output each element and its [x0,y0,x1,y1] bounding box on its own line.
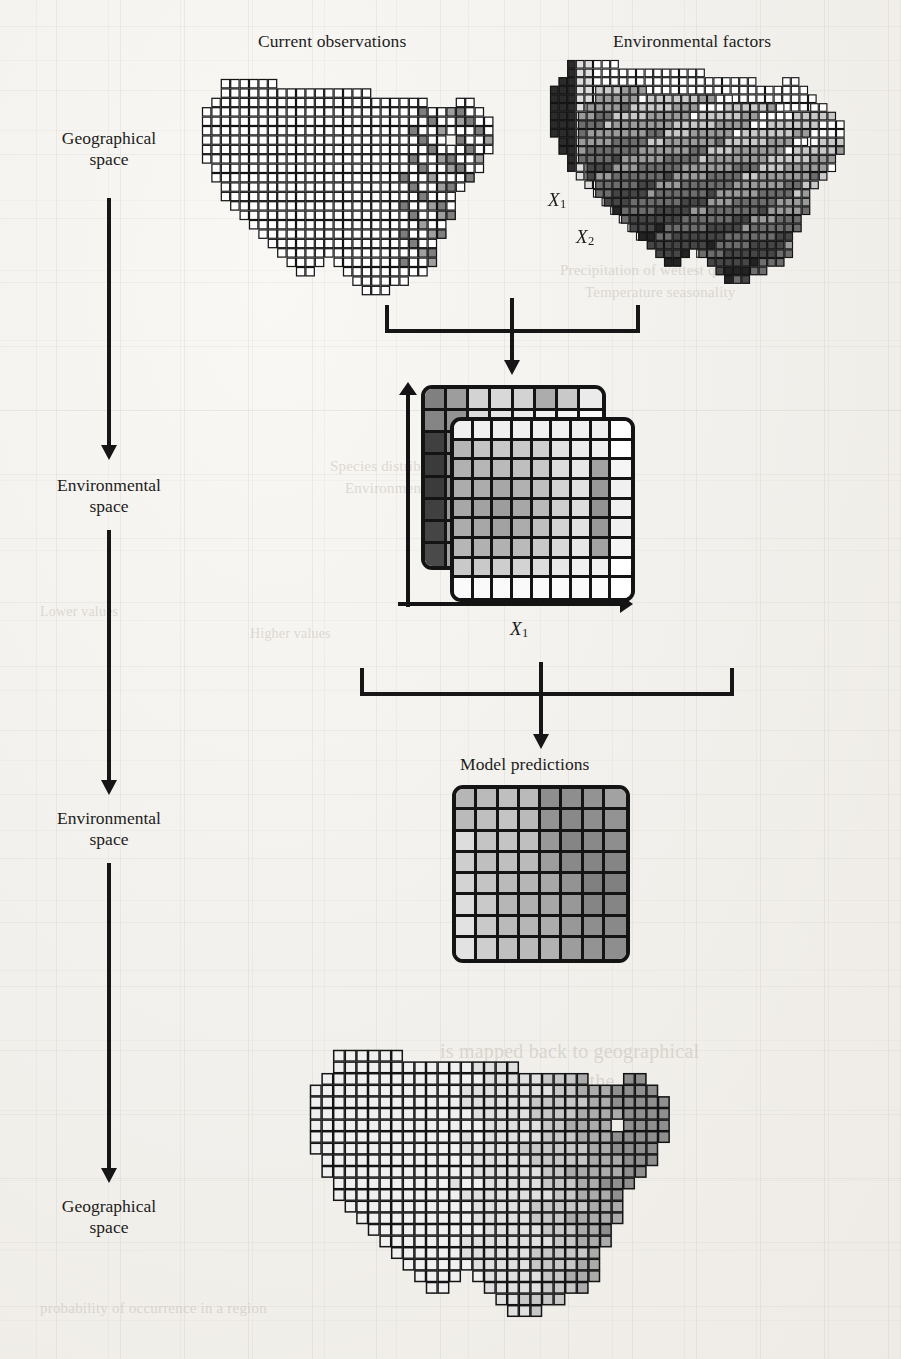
grid-cell [533,500,553,520]
grid-cell [477,895,498,916]
x1-subscript: 1 [522,626,529,640]
grid-cell [611,519,631,539]
grid-cell [562,789,583,810]
grid-cell [592,421,612,441]
grid-cell [425,389,447,411]
stage-label-line2: space [90,829,129,849]
grid-cell [605,874,626,895]
grid-cell [493,578,513,598]
grid-cell [493,421,513,441]
grid-cell [552,578,572,598]
grid-cell [611,460,631,480]
grid-cell [520,832,541,853]
grid-cell [499,853,520,874]
map-current-observations [198,75,518,305]
grid-cell [562,810,583,831]
title-environmental-factors: Environmental factors [613,31,771,52]
grid-cell [605,853,626,874]
label-x1-map: X1 [548,189,566,212]
grid-cell [454,559,474,579]
grid-cell [499,917,520,938]
grid-cell [477,832,498,853]
grid-cell [491,389,513,411]
grid-cell [552,441,572,461]
grid-cell [541,810,562,831]
x1-symbol: X [548,189,560,210]
grid-cell [558,389,580,411]
grid-cell [474,421,494,441]
grid-cell [572,421,592,441]
grid-cell [456,789,477,810]
title-model-predictions: Model predictions [460,754,590,775]
grid-cell [456,938,477,959]
grid-cell [562,938,583,959]
map-model-predictions-geographic [305,1045,693,1341]
grid-cell [469,389,491,411]
grid-cell [456,810,477,831]
grid-cell [541,853,562,874]
grid-cell [592,519,612,539]
grid-cell [513,441,533,461]
stage-label-geographical-space-2: Geographical space [14,1196,204,1238]
grid-cell [584,789,605,810]
env-space-y-axis [398,382,418,607]
grid-cell [572,519,592,539]
grid-cell [572,441,592,461]
grid-cell [584,874,605,895]
grid-cell [562,917,583,938]
grid-cell [520,853,541,874]
env-space-plate-front [450,417,635,602]
grid-cell [474,578,494,598]
grid-cell [572,578,592,598]
grid-cell [493,539,513,559]
x1-subscript: 1 [560,197,567,211]
grid-cell [493,480,513,500]
stage-label-line1: Environmental [57,808,161,828]
grid-cell [611,480,631,500]
grid-cell [572,500,592,520]
grid-cell [477,917,498,938]
grid-cell [454,421,474,441]
grid-cell [533,460,553,480]
label-x2-map: X2 [576,226,594,249]
figure-page: Precipitation of wettest quarter Tempera… [0,0,901,1359]
grid-cell [611,421,631,441]
grid-cell [541,832,562,853]
grid-cell [474,500,494,520]
grid-cell [584,895,605,916]
grid-cell [584,832,605,853]
grid-cell [580,389,602,411]
grid-cell [552,460,572,480]
grid-cell [552,421,572,441]
grid-cell [454,519,474,539]
grid-cell [533,421,553,441]
grid-cell [520,810,541,831]
grid-cell [541,895,562,916]
grid-cell [474,480,494,500]
grid-cell [477,874,498,895]
grid-cell [454,539,474,559]
grid-cell [592,578,612,598]
grid-cell [520,938,541,959]
grid-cell [592,480,612,500]
grid-cell [605,938,626,959]
grid-cell [552,539,572,559]
grid-cell [474,559,494,579]
grid-cell [477,789,498,810]
grid-cell [533,539,553,559]
x2-symbol: X [576,226,588,247]
grid-cell [592,460,612,480]
grid-cell [552,480,572,500]
grid-cell [533,559,553,579]
grid-cell [447,389,469,411]
grid-cell [562,853,583,874]
grid-cell [513,539,533,559]
grid-cell [552,519,572,539]
grid-cell [605,895,626,916]
grid-cell [533,480,553,500]
grid-cell [425,478,447,500]
grid-cell [533,578,553,598]
grid-cell [474,441,494,461]
grid-cell [499,810,520,831]
bleed-text: probability of occurrence in a region [40,1300,267,1317]
